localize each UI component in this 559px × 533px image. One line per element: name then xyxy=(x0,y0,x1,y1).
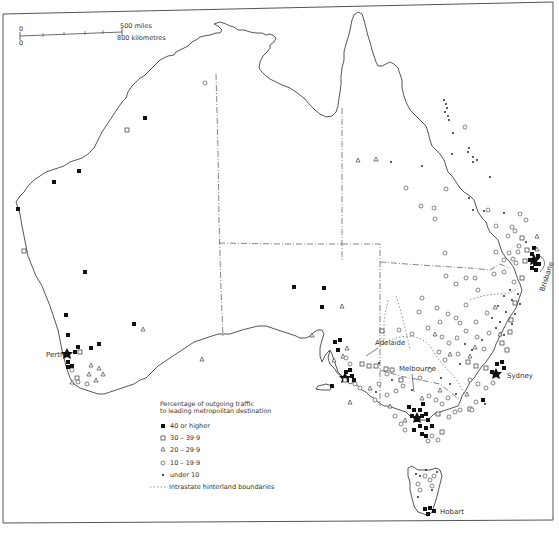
svg-text:30 – 39·9: 30 – 39·9 xyxy=(170,434,200,442)
circle-icon xyxy=(161,461,165,465)
kangaroo-island xyxy=(316,384,332,390)
hobart-label: Hobart xyxy=(440,508,464,516)
symbols-under-10 xyxy=(375,99,527,498)
dot-icon xyxy=(162,474,164,476)
svg-text:Intrastate hinterland boundari: Intrastate hinterland boundaries xyxy=(169,483,275,491)
legend-item-30-39: 30 – 39·9 xyxy=(161,434,200,442)
sydney-label: Sydney xyxy=(507,372,533,380)
legend-item-10-19: 10 – 19·9 xyxy=(161,459,200,467)
open-square-icon xyxy=(161,436,165,440)
scale-zero-bottom: 0 xyxy=(19,39,23,47)
adelaide-arrow xyxy=(366,348,378,356)
legend-item-20-29: 20 – 29·9 xyxy=(161,446,200,454)
map-frame xyxy=(3,2,553,523)
symbols-20-29 xyxy=(70,157,539,422)
legend-item-under-10: under 10 xyxy=(162,471,199,479)
filled-square-icon xyxy=(161,424,165,428)
city-markers xyxy=(61,254,540,423)
symbols-10-19 xyxy=(70,81,528,492)
scale-km-label: 800 kilometres xyxy=(117,34,166,42)
svg-text:20 – 29·9: 20 – 29·9 xyxy=(170,446,200,454)
legend-item-hinterland: Intrastate hinterland boundaries xyxy=(150,483,275,491)
legend: Percentage of outgoing traffic to leadin… xyxy=(150,400,275,491)
svg-text:under 10: under 10 xyxy=(170,471,199,479)
svg-text:40 or higher: 40 or higher xyxy=(170,422,210,430)
svg-text:10 – 19·9: 10 – 19·9 xyxy=(170,459,200,467)
scale-zero-top: 0 xyxy=(19,25,23,33)
perth-label: Perth xyxy=(46,351,64,359)
legend-item-40-plus: 40 or higher xyxy=(161,422,210,430)
symbols-40-plus xyxy=(16,116,541,516)
state-borders xyxy=(216,74,510,406)
australia-traffic-map: 0 0 500 miles 800 kilometres xyxy=(0,0,559,533)
adelaide-label: Adelaide xyxy=(375,339,405,347)
triangle-icon xyxy=(161,447,165,451)
scale-miles-label: 500 miles xyxy=(120,22,152,30)
scale-bar: 0 0 500 miles 800 kilometres xyxy=(19,22,166,47)
symbols-30-39 xyxy=(22,128,529,434)
legend-title-line2: to leading metropolitan destination xyxy=(160,407,271,415)
